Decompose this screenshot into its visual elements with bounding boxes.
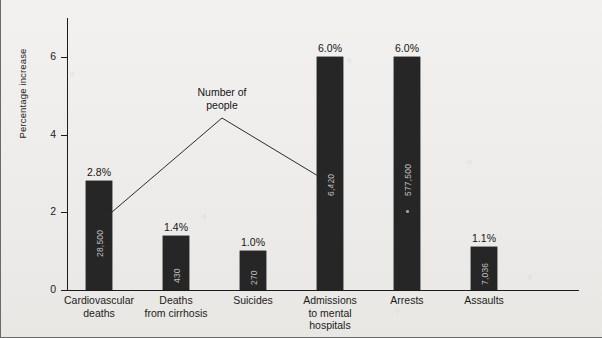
annotation-leader-line (0, 0, 602, 338)
annotation-number-of-people: Number of people (152, 86, 292, 111)
bar-chart: Percentage increase 6 4 2 0 2.8% 28,500 … (0, 0, 602, 338)
